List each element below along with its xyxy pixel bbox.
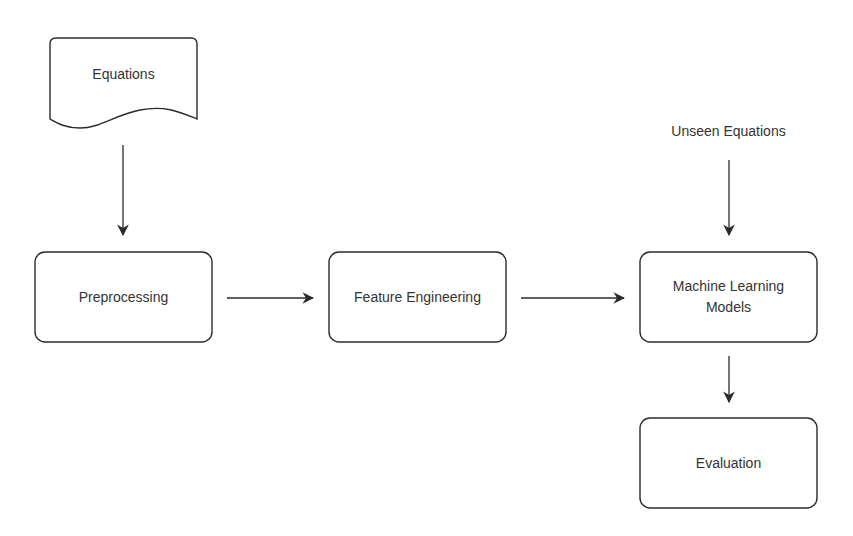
equations-label: Equations <box>50 38 197 110</box>
evaluation-label: Evaluation <box>640 418 817 508</box>
feature-engineering-label: Feature Engineering <box>329 252 506 342</box>
ml-models-label: Machine Learning Models <box>640 252 817 342</box>
preprocessing-label-text: Preprocessing <box>79 287 169 308</box>
evaluation-label-text: Evaluation <box>696 453 761 474</box>
unseen-equations-label-text: Unseen Equations <box>671 123 785 139</box>
unseen-equations-label: Unseen Equations <box>640 123 817 139</box>
equations-label-text: Equations <box>92 64 154 85</box>
preprocessing-label: Preprocessing <box>35 252 212 342</box>
ml-models-label-line-1: Machine Learning <box>673 276 784 297</box>
feature-engineering-label-text: Feature Engineering <box>354 287 481 308</box>
ml-models-label-line-2: Models <box>706 297 751 318</box>
